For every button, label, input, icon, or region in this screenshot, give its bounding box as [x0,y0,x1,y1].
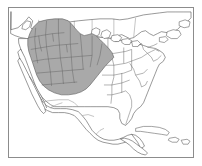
north-america-map [9,8,193,157]
map-frame [8,7,194,158]
range-map-figure [0,0,202,166]
